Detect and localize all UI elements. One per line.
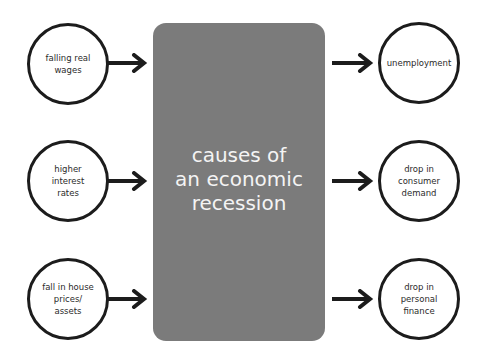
node-label: drop in personal finance [384, 281, 454, 317]
node-label-line: finance [384, 305, 454, 317]
effect-node-unemployment: unemployment [378, 22, 460, 104]
center-title-line: causes of [159, 143, 319, 167]
node-label-line: drop in [384, 163, 454, 175]
center-box: causes of an economic recession [153, 23, 325, 341]
node-label-line: assets [33, 305, 103, 317]
right-arrow-icon [332, 171, 374, 191]
node-label-line: personal [384, 293, 454, 305]
node-label-line: demand [384, 187, 454, 199]
right-arrow-icon [106, 53, 148, 73]
node-label-line: consumer [384, 175, 454, 187]
node-label-line: falling real [33, 52, 103, 64]
node-label-line: prices/ [33, 293, 103, 305]
node-label: drop in consumer demand [384, 163, 454, 199]
effect-node-drop-in-consumer-demand: drop in consumer demand [378, 140, 460, 222]
cause-node-fall-in-house-prices: fall in house prices/ assets [27, 258, 109, 340]
right-arrow-icon [332, 53, 374, 73]
center-title-line: recession [159, 191, 319, 215]
node-label: fall in house prices/ assets [33, 281, 103, 317]
node-label: falling real wages [33, 52, 103, 76]
node-label-line: interest [33, 175, 103, 187]
node-label: unemployment [384, 57, 454, 69]
node-label-line: unemployment [384, 57, 454, 69]
node-label-line: wages [33, 64, 103, 76]
node-label-line: rates [33, 187, 103, 199]
node-label-line: fall in house [33, 281, 103, 293]
node-label-line: higher [33, 163, 103, 175]
right-arrow-icon [332, 289, 374, 309]
cause-node-falling-real-wages: falling real wages [27, 23, 109, 105]
center-title-line: an economic [159, 167, 319, 191]
right-arrow-icon [106, 171, 148, 191]
effect-node-drop-in-personal-finance: drop in personal finance [378, 258, 460, 340]
node-label: higher interest rates [33, 163, 103, 199]
recession-diagram: causes of an economic recession falling … [0, 0, 483, 361]
right-arrow-icon [106, 289, 148, 309]
center-title: causes of an economic recession [159, 143, 319, 215]
cause-node-higher-interest-rates: higher interest rates [27, 140, 109, 222]
node-label-line: drop in [384, 281, 454, 293]
